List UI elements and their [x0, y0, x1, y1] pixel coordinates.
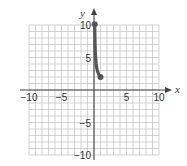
y-tick-label: 5	[85, 53, 91, 64]
x-axis-arrow-icon	[165, 87, 172, 93]
x-tick-label: 5	[124, 92, 130, 103]
y-tick-label: 10	[80, 20, 92, 31]
endpoint-dot	[98, 74, 104, 80]
x-tick-label: −10	[21, 92, 38, 103]
x-axis-label: x	[174, 83, 180, 95]
y-tick-label: −5	[80, 118, 92, 129]
y-axis-arrow-icon	[91, 8, 97, 15]
x-tick-label: 10	[153, 92, 165, 103]
y-axis-label: y	[79, 7, 85, 19]
x-tick-label: −5	[56, 92, 68, 103]
y-tick-label: −10	[74, 150, 91, 161]
chart: −10−5510105−5−10 x y	[0, 0, 187, 166]
endpoint-dot	[92, 21, 98, 27]
